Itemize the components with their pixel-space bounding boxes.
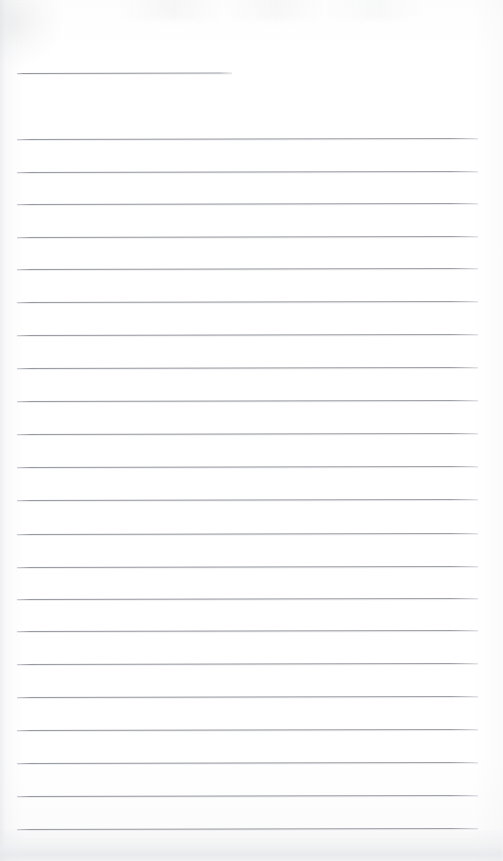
ruled-line [17,236,478,238]
ruled-line [17,762,478,764]
ruled-line [17,268,478,270]
ruled-line [17,203,478,205]
ruled-line [17,533,478,535]
ruled-line [17,598,478,600]
ruled-line [17,433,478,435]
ruled-line [17,499,478,501]
ruled-line [17,630,478,632]
ruled-line-short [17,72,232,74]
ruled-line [17,566,478,568]
ruled-line [17,138,478,140]
ruled-line [17,400,478,402]
ruled-line [17,367,478,369]
ruled-line [17,466,478,468]
ruled-line [17,696,478,698]
ruled-line [17,334,478,336]
ruled-line [17,301,478,303]
scanned-page [0,0,503,861]
ruled-line [17,795,478,797]
ruled-line [17,663,478,665]
ruled-line [17,729,478,731]
ruled-line [17,171,478,173]
ruled-line [17,828,478,830]
